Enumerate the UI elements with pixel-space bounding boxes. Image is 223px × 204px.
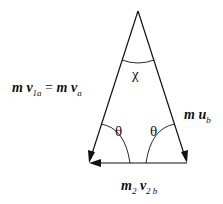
- left-arrowhead-icon: [88, 150, 95, 163]
- subscript: 2 b: [146, 186, 157, 196]
- bottom-side-label: m2 v2 b: [121, 178, 157, 196]
- bottom-arrowhead-icon: [89, 159, 101, 167]
- left-base-angle-label: θ: [115, 123, 122, 140]
- apex-angle-label: χ: [132, 66, 139, 83]
- left-side-vector: [90, 11, 138, 160]
- right-arrowhead-icon: [181, 150, 188, 163]
- mass-symbol: m: [184, 107, 195, 122]
- subscript: a: [77, 88, 82, 98]
- left-side-label: m v1a = m va: [12, 80, 82, 98]
- momentum-triangle-diagram: [0, 0, 223, 204]
- right-side-label: m ub: [184, 107, 211, 125]
- mass-symbol: m: [121, 178, 132, 193]
- mass-symbol: m: [57, 80, 68, 95]
- subscript: 2: [132, 186, 137, 196]
- right-side-vector: [138, 11, 186, 160]
- apex-angle-arc: [122, 60, 154, 63]
- mass-symbol: m: [12, 80, 23, 95]
- subscript: b: [206, 115, 211, 125]
- subscript: 1a: [33, 88, 42, 98]
- right-base-angle-label: θ: [150, 123, 157, 140]
- equals-sign: =: [45, 80, 53, 95]
